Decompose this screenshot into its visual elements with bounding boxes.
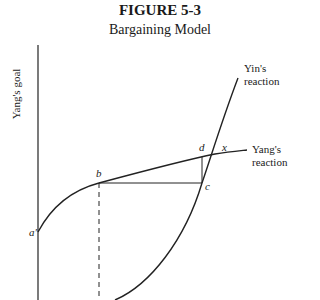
yang-reaction-curve — [38, 150, 247, 232]
point-x-label: x — [222, 141, 227, 153]
point-b-label: b — [96, 167, 102, 179]
point-c-label: c — [205, 180, 210, 192]
point-d-label: d — [199, 141, 205, 153]
yin-reaction-curve — [115, 78, 238, 300]
yang-reaction-label: Yang's reaction — [252, 143, 287, 169]
point-a-label: a' — [29, 226, 37, 238]
yin-reaction-label: Yin's reaction — [244, 62, 279, 88]
